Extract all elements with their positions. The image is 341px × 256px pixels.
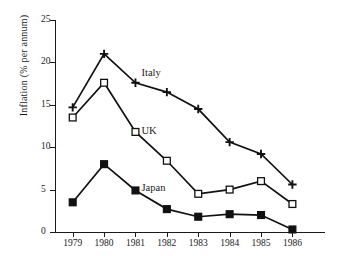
y-tick-label: 20 [41, 58, 46, 68]
data-point-japan-1983 [195, 213, 202, 220]
data-point-italy-1979 [68, 103, 76, 111]
series-label-japan: Japan [141, 183, 165, 194]
y-tick-label: 10 [41, 142, 46, 152]
data-point-japan-1984 [226, 211, 233, 218]
data-point-japan-1982 [163, 206, 170, 213]
series-layer [55, 20, 325, 232]
data-point-uk-1980 [101, 79, 108, 86]
y-tick-label: 0 [41, 227, 46, 237]
x-tick [135, 232, 136, 237]
x-axis-line [55, 232, 325, 233]
inflation-line-chart: Inflation (% per annum) 0510152025 19791… [0, 0, 341, 256]
x-tick [167, 232, 168, 237]
x-tick [230, 232, 231, 237]
x-tick-label: 1980 [95, 239, 114, 249]
plot-area: 0510152025 19791980198119821983198419851… [55, 20, 325, 232]
x-tick-label: 1986 [283, 239, 302, 249]
series-label-uk: UK [141, 126, 156, 137]
x-tick-label: 1979 [63, 239, 82, 249]
data-point-uk-1982 [163, 157, 170, 164]
x-tick-label: 1982 [157, 239, 176, 249]
data-point-japan-1986 [289, 226, 296, 233]
x-tick [261, 232, 262, 237]
y-axis-title: Inflation (% per annum) [18, 0, 29, 141]
data-point-uk-1986 [289, 201, 296, 208]
x-tick [198, 232, 199, 237]
series-label-italy: Italy [141, 68, 160, 79]
series-line-japan [73, 164, 293, 229]
x-tick [104, 232, 105, 237]
y-tick [50, 232, 56, 233]
x-tick-label: 1983 [189, 239, 208, 249]
data-point-uk-1981 [132, 129, 139, 136]
y-tick-label: 15 [41, 100, 46, 110]
x-tick [73, 232, 74, 237]
x-tick-label: 1984 [220, 239, 239, 249]
x-tick-label: 1981 [126, 239, 145, 249]
data-point-uk-1984 [226, 186, 233, 193]
x-tick-label: 1985 [252, 239, 271, 249]
data-point-uk-1985 [258, 178, 265, 185]
data-point-italy-1982 [163, 88, 171, 96]
y-tick-label: 5 [41, 185, 46, 195]
data-point-japan-1981 [132, 187, 139, 194]
data-point-uk-1979 [69, 114, 76, 121]
data-point-japan-1980 [101, 161, 108, 168]
data-point-japan-1979 [69, 199, 76, 206]
y-tick-label: 25 [41, 15, 46, 25]
data-point-uk-1983 [195, 190, 202, 197]
data-point-japan-1985 [258, 212, 265, 219]
